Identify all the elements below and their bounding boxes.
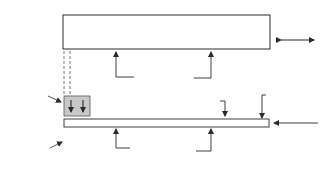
light-source-box [64,96,90,116]
light-source-label [14,84,50,86]
edge-pattern-leader-left [116,140,130,148]
top-pattern-label [124,55,204,57]
edge-view-encoder-strip [64,119,269,127]
motion-axis-label [280,18,318,19]
top-view-encoder-strip [63,15,270,49]
edge-pattern-label [124,130,204,132]
opaque-pointer [220,101,225,116]
top-pattern-leader-left [116,66,134,77]
light-detectors-label [5,140,55,142]
light-detectors-pointer [50,142,62,148]
encoder-diagram [0,0,334,176]
top-pattern-leader-right [194,66,211,78]
edge-pattern-leader-right [196,140,211,151]
light-source-pointer [48,96,61,102]
transparent-pointer [262,95,266,118]
